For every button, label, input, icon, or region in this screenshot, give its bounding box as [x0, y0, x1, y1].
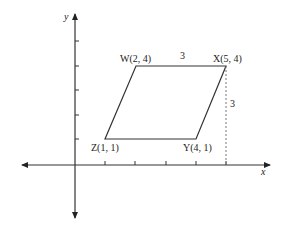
height-length: 3	[230, 98, 235, 109]
vertex-label-y: Y(4, 1)	[183, 142, 212, 154]
vertex-label-w: W(2, 4)	[120, 53, 151, 65]
y-axis-label: y	[63, 11, 69, 22]
vertex-label-x: X(5, 4)	[213, 53, 242, 65]
vertex-label-z: Z(1, 1)	[91, 142, 119, 154]
coordinate-diagram: y x W(2, 4) X(5, 4) Y(4, 1) Z(1, 1) 3 3	[0, 0, 286, 228]
top-side-length: 3	[180, 50, 185, 61]
parallelogram-wxyz	[105, 66, 226, 139]
x-axis-label: x	[260, 166, 266, 177]
